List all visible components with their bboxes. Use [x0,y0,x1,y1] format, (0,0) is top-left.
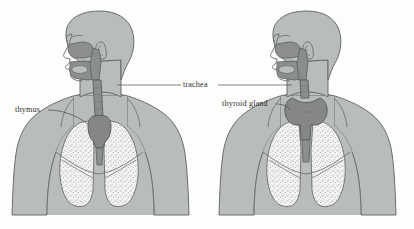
left-figure-tongue [72,66,88,74]
label-thyroid-gland: thyroid gland [222,100,268,108]
right-figure-trachea[interactable] [300,80,309,98]
left-figure-nasal-cavity [68,42,93,58]
right-figure-nasal-cavity [275,42,300,58]
anatomy-illustration [0,0,414,229]
left-figure-trachea[interactable] [93,80,103,116]
label-thymus: thymus [15,106,40,114]
right-figure-tongue [279,66,295,74]
left-figure-trachea-lower [96,148,103,165]
right-figure [219,11,396,215]
diagram-canvas: trachea thymus thyroid gland [0,0,414,229]
label-trachea: trachea [183,81,208,89]
right-figure-trachea-lower [302,140,310,162]
